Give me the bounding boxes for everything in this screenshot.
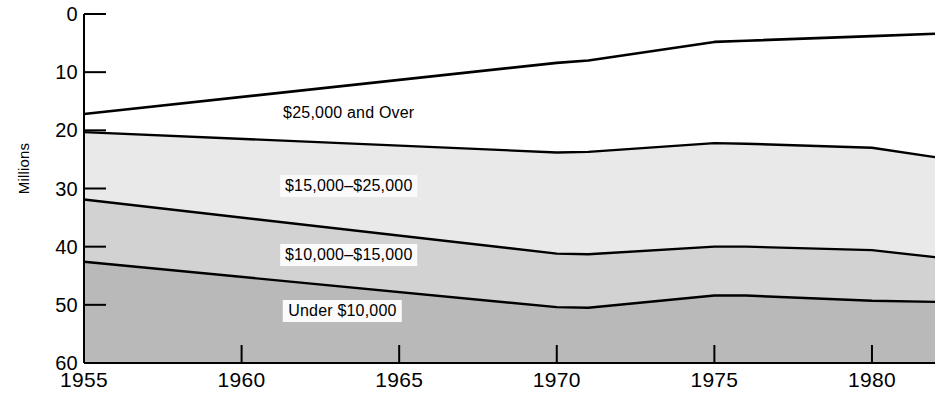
- x-tick-label: 1970: [533, 369, 581, 391]
- y-tick-label: 10: [34, 62, 78, 82]
- x-tick-label: 1975: [690, 369, 738, 391]
- band-label: $15,000–$25,000: [280, 175, 418, 197]
- stacked-area-bands: [84, 34, 935, 363]
- y-tick-label: 0: [34, 4, 78, 24]
- y-axis-tick-labels: 6050403020100: [0, 0, 78, 405]
- band-label: $25,000 and Over: [278, 102, 419, 124]
- y-tick-label: 50: [34, 295, 78, 315]
- x-tick-label: 1960: [218, 369, 266, 391]
- x-tick-label: 1965: [375, 369, 423, 391]
- band-label: Under $10,000: [283, 300, 401, 322]
- x-tick-label: 1955: [60, 369, 108, 391]
- y-tick-label: 20: [34, 120, 78, 140]
- income-distribution-area-chart: Millions 6050403020100 19551960196519701…: [0, 0, 935, 405]
- y-tick-label: 40: [34, 237, 78, 257]
- y-tick-label: 30: [34, 179, 78, 199]
- x-tick-label: 1980: [848, 369, 896, 391]
- band-label: $10,000–$15,000: [280, 244, 418, 266]
- plot-area: [0, 0, 935, 405]
